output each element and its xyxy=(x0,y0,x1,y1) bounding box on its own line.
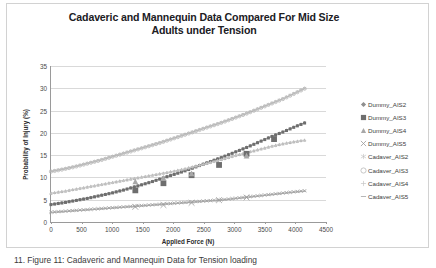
highlight-point xyxy=(271,136,277,142)
legend-item-dummy-ais3[interactable]: Dummy_AIS3 xyxy=(359,111,433,124)
legend-marker-circle-icon xyxy=(359,166,368,175)
series-line xyxy=(51,88,305,171)
plot-area: 0510152025303505001000150020002500300035… xyxy=(50,66,326,223)
legend-marker-plus-icon xyxy=(359,179,368,188)
legend-marker-dash-icon xyxy=(359,192,368,201)
x-axis-tick-label: 4000 xyxy=(288,226,302,233)
x-axis-tick-mark xyxy=(265,222,266,224)
series-line xyxy=(51,191,305,212)
series-cadaver-ais2 xyxy=(49,87,306,173)
x-axis-tick-label: 3000 xyxy=(227,226,241,233)
legend-item-dummy-ais2[interactable]: Dummy_AIS2 xyxy=(359,98,433,111)
legend-item-cadaver-ais4[interactable]: Cadaver_AIS4 xyxy=(359,177,433,190)
legend-label: Dummy_AIS5 xyxy=(368,140,406,147)
legend-item-cadaver-ais3[interactable]: Cadaver_AIS3 xyxy=(359,163,433,176)
legend-label: Cadaver_AIS2 xyxy=(368,153,408,160)
legend-item-cadaver-ais5[interactable]: Cadaver_AIS5 xyxy=(359,190,433,203)
highlight-point xyxy=(132,187,138,193)
x-axis-tick-label: 1000 xyxy=(105,226,119,233)
chart-title: Cadaveric and Mannequin Data Compared Fo… xyxy=(41,11,367,38)
legend-marker-diamond-icon xyxy=(359,100,368,109)
series-dummy-ais4 xyxy=(49,138,306,194)
legend-marker-x-icon xyxy=(359,139,368,148)
y-axis-tick-label: 5 xyxy=(43,196,47,203)
y-axis-tick-label: 0 xyxy=(43,219,47,226)
legend-item-dummy-ais5[interactable]: Dummy_AIS5 xyxy=(359,137,433,150)
legend-label: Dummy_AIS2 xyxy=(368,101,406,108)
legend-label: Dummy_AIS3 xyxy=(368,114,406,121)
highlight-point xyxy=(216,162,222,168)
legend-label: Dummy_AIS4 xyxy=(368,127,406,134)
chart-legend: Dummy_AIS2Dummy_AIS3Dummy_AIS4Dummy_AIS5… xyxy=(359,98,433,203)
chart-card: Cadaveric and Mannequin Data Compared Fo… xyxy=(6,3,429,248)
chart-title-line-1: Cadaveric and Mannequin Data Compared Fo… xyxy=(41,11,367,24)
x-axis-tick-label: 500 xyxy=(76,226,87,233)
legend-label: Cadaver_AIS5 xyxy=(368,193,408,200)
x-axis-tick-label: 2500 xyxy=(197,226,211,233)
figure-root: Cadaveric and Mannequin Data Compared Fo… xyxy=(0,0,436,268)
x-axis-tick-mark xyxy=(173,222,174,224)
x-axis-tick-mark xyxy=(143,222,144,224)
legend-marker-square-icon xyxy=(359,113,368,122)
y-axis-tick-label: 15 xyxy=(40,152,47,159)
series-line xyxy=(51,89,305,172)
x-axis-tick-mark xyxy=(112,222,113,224)
x-axis-tick-mark xyxy=(82,222,83,224)
series-line xyxy=(51,140,305,193)
x-axis-title: Applied Force (N) xyxy=(50,238,326,245)
x-axis-tick-label: 1500 xyxy=(136,226,150,233)
legend-label: Cadaver_AIS3 xyxy=(368,167,408,174)
series-cadaver-ais3 xyxy=(49,87,306,173)
x-axis-tick-mark xyxy=(234,222,235,224)
y-axis-tick-label: 10 xyxy=(40,174,47,181)
y-axis-tick-label: 30 xyxy=(40,85,47,92)
x-axis-tick-label: 4500 xyxy=(319,226,333,233)
legend-marker-asterisk-icon xyxy=(359,152,368,161)
highlight-point xyxy=(161,180,167,186)
y-axis-tick-label: 20 xyxy=(40,129,47,136)
x-axis-tick-label: 0 xyxy=(49,226,53,233)
x-axis-tick-mark xyxy=(326,222,327,224)
y-axis-tick-label: 25 xyxy=(40,107,47,114)
chart-title-line-2: Adults under Tension xyxy=(41,24,367,37)
legend-marker-triangle-icon xyxy=(359,126,368,135)
y-axis-title: Probability of Injury (%) xyxy=(20,66,30,223)
series-layer xyxy=(51,66,326,222)
legend-item-dummy-ais4[interactable]: Dummy_AIS4 xyxy=(359,124,433,137)
x-axis-tick-mark xyxy=(51,222,52,224)
figure-caption: 11. Figure 11: Cadaveric and Mannequin D… xyxy=(14,255,424,265)
x-axis-tick-mark xyxy=(204,222,205,224)
x-axis-tick-label: 2000 xyxy=(166,226,180,233)
y-axis-tick-label: 35 xyxy=(40,63,47,70)
legend-label: Cadaver_AIS4 xyxy=(368,180,408,187)
x-axis-tick-label: 3500 xyxy=(258,226,272,233)
legend-item-cadaver-ais2[interactable]: Cadaver_AIS2 xyxy=(359,150,433,163)
x-axis-tick-mark xyxy=(295,222,296,224)
